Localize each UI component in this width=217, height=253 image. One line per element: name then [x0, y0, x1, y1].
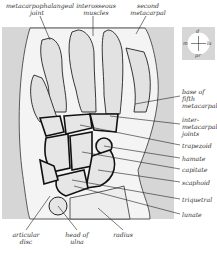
label-trapezoid: trapezoid — [182, 142, 212, 149]
label-second-metacarpal: second metacarpal — [128, 2, 168, 16]
label-scaphoid: scaphoid — [182, 179, 210, 186]
label-capitate: capitate — [182, 166, 207, 173]
compass-lateral: la — [207, 40, 212, 47]
label-articular-disc: articular disc — [8, 231, 44, 245]
label-intermetacarpal-joints: inter- metacarpal joints — [182, 116, 217, 137]
label-base-of-fifth-metacarpal: base of fifth metacarpal — [182, 88, 217, 109]
label-triquetral: triquetral — [182, 196, 212, 203]
compass-medial: m — [183, 40, 188, 47]
label-metacarpophalangeal-joint: metacarpophalangeal joint — [6, 2, 68, 16]
label-lunate: lunate — [182, 211, 202, 218]
compass-proximal: pr — [195, 52, 201, 59]
label-interosseous-muscles: interosseous muscles — [74, 2, 118, 16]
label-head-of-ulna: head of ulna — [60, 231, 94, 245]
label-hamate: hamate — [182, 155, 205, 162]
label-radius: radius — [108, 231, 138, 238]
capitate-bone-2 — [70, 132, 92, 170]
compass-distal: d — [196, 28, 199, 35]
